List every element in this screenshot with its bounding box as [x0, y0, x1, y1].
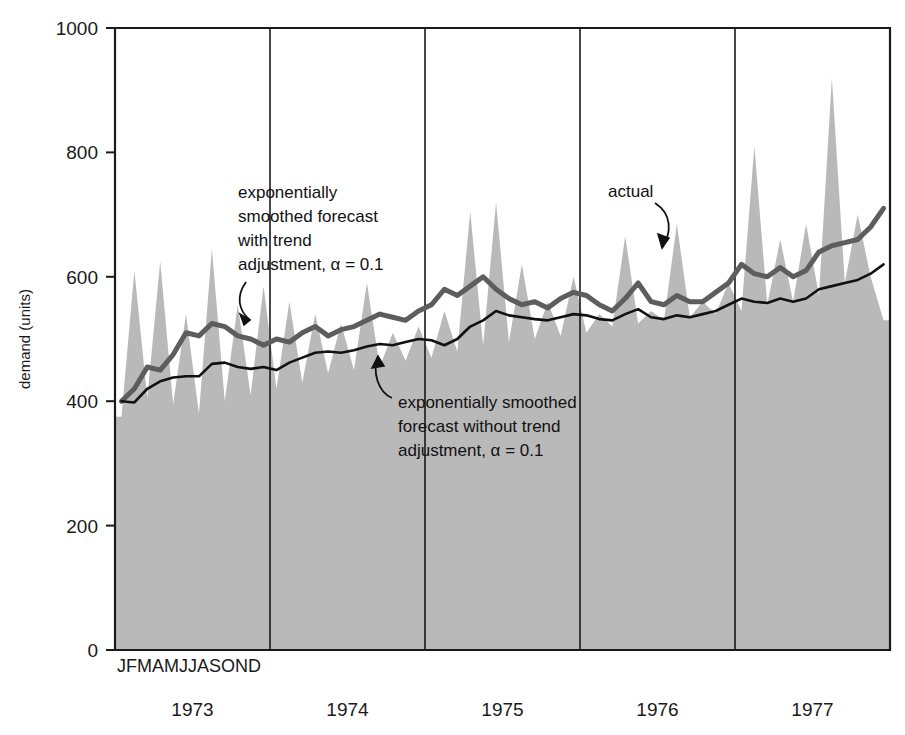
x-axis-month-initials: JFMAMJJASOND — [117, 656, 261, 676]
chart-figure: 02004006008001000 demand (units) JFMAMJJ… — [0, 0, 905, 735]
y-tick-label-800: 800 — [66, 142, 98, 163]
y-axis: 02004006008001000 — [56, 18, 115, 661]
x-year-label-1973: 1973 — [171, 699, 213, 720]
y-axis-title: demand (units) — [16, 289, 33, 389]
y-tick-label-600: 600 — [66, 267, 98, 288]
x-year-label-1975: 1975 — [481, 699, 523, 720]
annotation-actual-label: actual — [608, 182, 653, 201]
annotation-trend-line-1: exponentially — [238, 183, 338, 202]
annotation-trend-line-4: adjustment, α = 0.1 — [238, 255, 383, 274]
y-tick-label-1000: 1000 — [56, 18, 98, 39]
annotation-no-trend-line-3: adjustment, α = 0.1 — [398, 441, 543, 460]
y-tick-label-400: 400 — [66, 391, 98, 412]
annotation-no-trend-line-2: forecast without trend — [398, 417, 561, 436]
x-axis-year-labels: 19731974197519761977 — [171, 699, 833, 720]
annotation-trend-line-2: smoothed forecast — [238, 207, 378, 226]
x-year-label-1977: 1977 — [791, 699, 833, 720]
annotation-trend-line-3: with trend — [237, 231, 312, 250]
y-tick-label-0: 0 — [87, 640, 98, 661]
x-year-label-1974: 1974 — [326, 699, 369, 720]
demand-forecast-chart: 02004006008001000 demand (units) JFMAMJJ… — [0, 0, 905, 735]
annotation-no-trend-line-1: exponentially smoothed — [398, 393, 577, 412]
x-year-label-1976: 1976 — [636, 699, 678, 720]
y-tick-label-200: 200 — [66, 516, 98, 537]
